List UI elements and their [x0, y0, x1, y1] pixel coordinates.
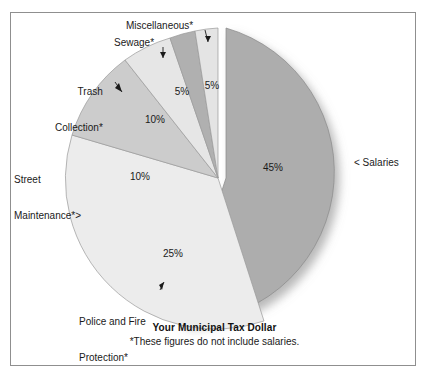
callout-label-sewage: Sewage* [114, 37, 154, 49]
slice-value-street-maintenance: 10% [130, 171, 150, 182]
callout-label-street-line2: Maintenance*> [14, 210, 81, 222]
callout-label-trash-line2: Collection* [55, 122, 103, 134]
pie-chart: 45% 25% 10% 10% 5% 5% Miscellaneous* Sew… [0, 0, 429, 385]
callout-label-salaries: < Salaries [354, 157, 399, 169]
chart-subtitle: *These figures do not include salaries. [0, 336, 429, 347]
slice-value-police-fire: 25% [163, 248, 183, 259]
callout-label-street-line1: Street [14, 174, 81, 186]
callout-label-street-maintenance: Street Maintenance*> [14, 150, 81, 246]
chart-title: Your Municipal Tax Dollar [0, 322, 429, 333]
callout-label-miscellaneous: Miscellaneous* [126, 20, 193, 32]
callout-label-trash-line1: Trash [55, 86, 103, 98]
slice-value-miscellaneous: 5% [205, 80, 220, 91]
callout-label-trash-collection: Trash Collection* [55, 62, 103, 158]
slice-value-sewage: 5% [175, 86, 190, 97]
callout-label-police-line2: Protection* [79, 352, 146, 364]
slice-value-salaries: 45% [263, 162, 283, 173]
slice-value-trash-collection: 10% [145, 114, 165, 125]
title-block: Your Municipal Tax Dollar *These figures… [0, 322, 429, 347]
